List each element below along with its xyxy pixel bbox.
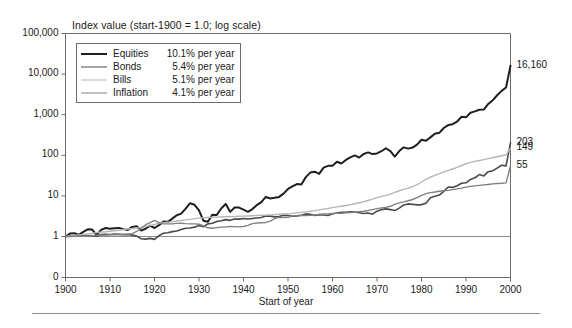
legend-rate-value: 10.1%: [165, 48, 195, 59]
x-tick-label: 1910: [90, 284, 130, 295]
legend-rate-suffix: per year: [198, 61, 235, 72]
figure-bottom-rule: [32, 313, 540, 314]
legend-item-inflation: Inflation4.1% per year: [81, 86, 234, 99]
legend-item-equities: Equities10.1% per year: [81, 47, 234, 60]
legend-rate-value: 4.1%: [165, 87, 195, 98]
legend-label: Inflation: [113, 87, 165, 98]
legend-label: Equities: [113, 48, 165, 59]
legend-rate-value: 5.4%: [165, 61, 195, 72]
legend-rate-value: 5.1%: [165, 74, 195, 85]
legend-label: Bonds: [113, 61, 165, 72]
legend-label: Bills: [113, 74, 165, 85]
y-tick-label: 1: [53, 230, 59, 241]
x-tick-label: 1970: [357, 284, 397, 295]
legend-swatch-equities-icon: [81, 49, 107, 59]
legend-item-bills: Bills5.1% per year: [81, 73, 234, 86]
x-tick-label: 1990: [446, 284, 486, 295]
x-tick-label: 1930: [179, 284, 219, 295]
end-label-inflation: 55: [517, 159, 528, 170]
x-tick-label: 1980: [402, 284, 442, 295]
x-tick-label: 1900: [46, 284, 86, 295]
series-line-bills: [66, 148, 511, 236]
legend-rate: 4.1% per year: [165, 87, 234, 98]
x-tick-label: 1960: [313, 284, 353, 295]
chart-legend: Equities10.1% per yearBonds5.4% per year…: [76, 43, 241, 103]
legend-rate: 5.1% per year: [165, 74, 234, 85]
y-tick-label: 0: [53, 271, 59, 282]
series-line-inflation: [66, 166, 511, 237]
legend-swatch-bills-icon: [81, 75, 107, 85]
legend-rate-suffix: per year: [198, 74, 235, 85]
legend-swatch-bonds-icon: [81, 62, 107, 72]
end-label-bills: 149: [517, 141, 534, 152]
y-tick-label: 10: [47, 189, 58, 200]
x-tick-label: 1940: [224, 284, 264, 295]
y-tick-label: 100: [42, 148, 59, 159]
y-tick-label: 10,000: [28, 67, 59, 78]
chart-figure: Index value (start-1900 = 1.0; log scale…: [0, 0, 572, 328]
x-axis-title: Start of year: [0, 296, 572, 307]
y-tick-label: 100,000: [22, 27, 58, 38]
end-label-equities: 16,160: [517, 59, 548, 70]
x-tick-label: 2000: [491, 284, 531, 295]
legend-rate-suffix: per year: [198, 48, 235, 59]
x-tick-label: 1950: [268, 284, 308, 295]
x-tick-label: 1920: [135, 284, 175, 295]
legend-rate-suffix: per year: [198, 87, 235, 98]
legend-rate: 5.4% per year: [165, 61, 234, 72]
y-tick-label: 1,000: [33, 108, 58, 119]
legend-rate: 10.1% per year: [165, 48, 234, 59]
legend-item-bonds: Bonds5.4% per year: [81, 60, 234, 73]
legend-swatch-inflation-icon: [81, 88, 107, 98]
